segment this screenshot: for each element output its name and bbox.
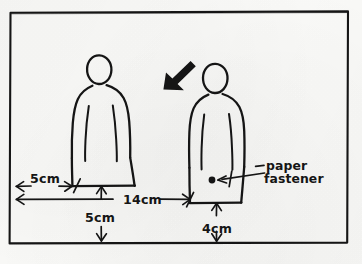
dimension-span-between xyxy=(16,192,193,206)
dimension-label-right-height: 4cm xyxy=(202,221,232,236)
paper-fastener-label-line2: fastener xyxy=(264,171,324,186)
sketch-canvas: 5cm 14cm 5cm 4 xyxy=(0,0,362,264)
dimension-label-span-between: 14cm xyxy=(123,192,162,207)
diagram-svg: 5cm 14cm 5cm 4 xyxy=(0,0,362,264)
paper-fastener-leader-line xyxy=(218,165,265,186)
left-figure xyxy=(72,55,135,186)
bold-arrow-cursor xyxy=(163,61,195,90)
right-figure xyxy=(189,64,244,203)
diagram-frame xyxy=(10,11,348,243)
dimension-label-left-offset: 5cm xyxy=(30,171,60,186)
paper-fastener-dot xyxy=(209,177,216,184)
dimension-label-left-height: 5cm xyxy=(85,210,115,225)
